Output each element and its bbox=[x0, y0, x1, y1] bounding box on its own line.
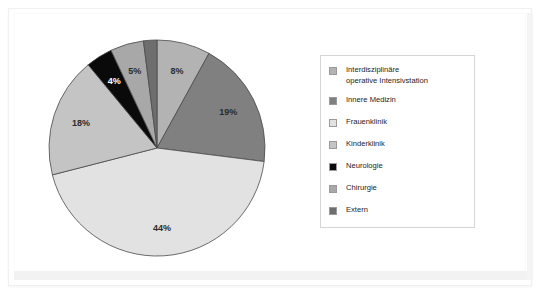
pie-slice-label: 4% bbox=[108, 76, 121, 86]
legend-item-label: Neurologie bbox=[346, 161, 383, 172]
legend-item[interactable]: Neurologie bbox=[329, 161, 468, 174]
pie-slice-label: 44% bbox=[153, 223, 171, 233]
legend-color-swatch bbox=[329, 163, 337, 171]
legend-item[interactable]: Kinderklinik bbox=[329, 139, 468, 152]
canvas-bottom-shadow bbox=[14, 271, 528, 280]
legend-color-swatch bbox=[329, 207, 337, 215]
legend-item-label: Innere Medizin bbox=[346, 95, 396, 106]
legend-item[interactable]: Interdisziplinäre operative Intensivstat… bbox=[329, 65, 468, 86]
pie-slice-label: 19% bbox=[219, 107, 237, 117]
legend-item[interactable]: Extern bbox=[329, 205, 468, 218]
legend-color-swatch bbox=[329, 97, 337, 105]
pie-chart-svg: 8%19%44%18%4%5%2% bbox=[47, 38, 267, 258]
legend-color-swatch bbox=[329, 185, 337, 193]
legend-item-label: Extern bbox=[346, 205, 368, 216]
canvas-right-shadow bbox=[527, 13, 533, 280]
legend-item-label: Frauenklinik bbox=[346, 117, 387, 128]
pie-slice-label: 18% bbox=[72, 118, 90, 128]
legend-color-swatch bbox=[329, 67, 337, 75]
legend-item[interactable]: Chirurgie bbox=[329, 183, 468, 196]
legend-item[interactable]: Innere Medizin bbox=[329, 95, 468, 108]
legend-color-swatch bbox=[329, 119, 337, 127]
legend-item[interactable]: Frauenklinik bbox=[329, 117, 468, 130]
chart-legend: Interdisziplinäre operative Intensivstat… bbox=[320, 55, 475, 228]
legend-item-label: Chirurgie bbox=[346, 183, 377, 194]
pie-slice-label: 5% bbox=[128, 66, 141, 76]
pie-slice-label: 8% bbox=[170, 66, 183, 76]
legend-item-label: Interdisziplinäre operative Intensivstat… bbox=[346, 65, 428, 86]
slide-frame: 8%19%44%18%4%5%2% Interdisziplinäre oper… bbox=[0, 0, 540, 298]
legend-color-swatch bbox=[329, 141, 337, 149]
pie-chart: 8%19%44%18%4%5%2% bbox=[47, 38, 267, 258]
legend-item-label: Kinderklinik bbox=[346, 139, 385, 150]
legend-item-list: Interdisziplinäre operative Intensivstat… bbox=[329, 65, 468, 227]
